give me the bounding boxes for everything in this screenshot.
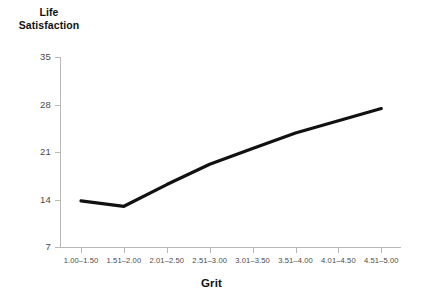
life-satisfaction-line [81,109,381,207]
x-tick-mark [81,248,82,253]
y-tick-label: 7 [25,241,51,252]
y-tick-label: 14 [25,194,51,205]
line-series-svg [0,0,423,300]
y-axis-title: Life Satisfaction [0,6,98,32]
x-tick-mark [338,248,339,253]
x-axis-line [60,247,401,248]
y-tick-label: 28 [25,99,51,110]
y-tick-mark [55,57,61,58]
y-tick-mark [55,200,61,201]
y-tick-mark [55,152,61,153]
chart-container: Life Satisfaction 714212835 1.00–1.501.5… [0,0,423,300]
x-tick-mark [253,248,254,253]
x-tick-mark [167,248,168,253]
x-tick-mark [210,248,211,253]
y-tick-mark [55,105,61,106]
x-tick-label: 4.51–5.00 [352,256,410,265]
x-tick-mark [124,248,125,253]
y-axis-title-line-1: Life [0,6,98,19]
y-tick-label: 21 [25,146,51,157]
x-tick-mark [381,248,382,253]
y-tick-label: 35 [25,51,51,62]
y-tick-mark [55,247,61,248]
x-axis-title: Grit [0,277,423,289]
x-tick-mark [296,248,297,253]
y-axis-title-line-2: Satisfaction [0,19,98,32]
